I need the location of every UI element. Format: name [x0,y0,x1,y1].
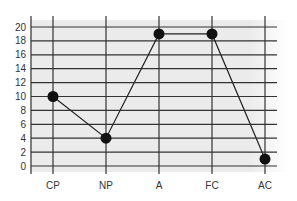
y-tick-label: 20 [15,22,27,33]
y-tick-label: 18 [15,35,27,46]
y-tick-label: 8 [20,105,26,116]
data-point-A [154,28,165,39]
y-tick-label: 14 [15,63,27,74]
y-tick-labels: 02468101214161820 [15,22,27,172]
data-point-NP [101,133,112,144]
y-tick-label: 0 [20,161,26,172]
y-tick-label: 4 [20,133,26,144]
y-tick-label: 10 [15,91,27,102]
x-tick-label: NP [99,180,113,191]
x-tick-label: A [156,180,163,191]
x-tick-label: AC [258,180,272,191]
y-tick-label: 2 [20,147,26,158]
y-tick-label: 16 [15,49,27,60]
y-tick-label: 6 [20,119,26,130]
line-chart: 02468101214161820 CPNPAFCAC [0,0,297,201]
y-tick-label: 12 [15,77,27,88]
x-tick-label: FC [205,180,218,191]
x-tick-label: CP [46,180,60,191]
data-point-CP [48,91,59,102]
x-tick-labels: CPNPAFCAC [46,180,272,191]
data-point-AC [260,154,271,165]
data-point-FC [207,28,218,39]
